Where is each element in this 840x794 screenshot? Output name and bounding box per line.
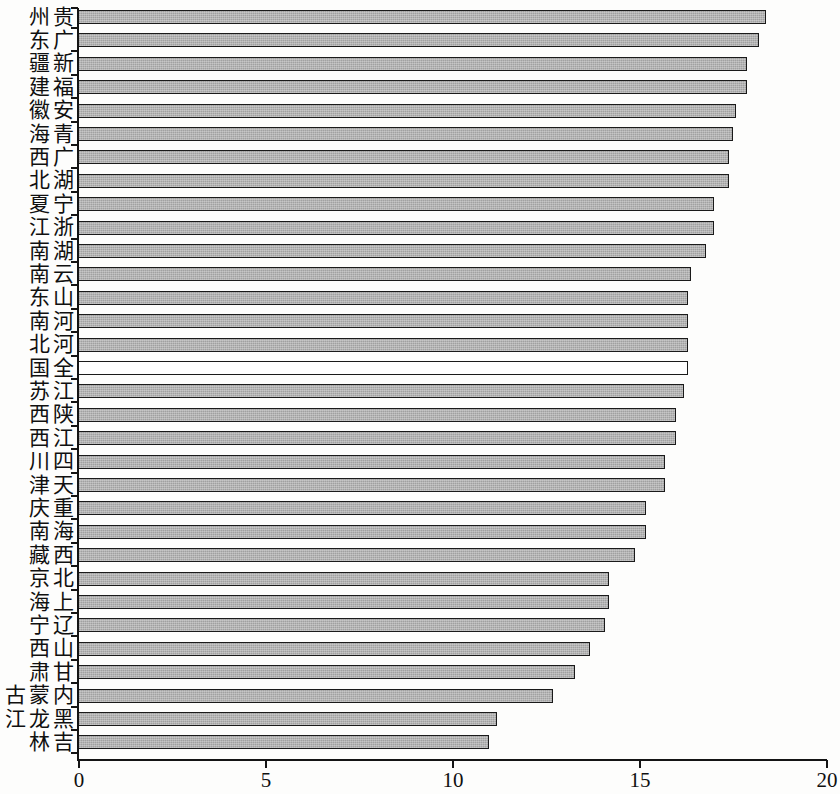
- category-label: 四川: [0, 451, 78, 473]
- category-label-char: 藏: [28, 545, 51, 566]
- bar: [78, 104, 736, 118]
- category-label-char: 宁: [28, 615, 51, 636]
- bar: [78, 361, 688, 375]
- category-label-char: 肃: [28, 662, 51, 683]
- category-label-char: 广: [52, 147, 75, 168]
- category-label-char: 重: [52, 498, 75, 519]
- bar: [78, 712, 497, 726]
- category-label-char: 山: [52, 287, 75, 308]
- bar: [78, 80, 747, 94]
- category-label-char: 川: [28, 451, 51, 472]
- bar: [78, 572, 609, 586]
- x-axis-tick-label: 5: [261, 769, 272, 791]
- category-label: 广西: [0, 146, 78, 168]
- category-label-char: 东: [28, 287, 51, 308]
- plot-area: [78, 8, 826, 760]
- category-label-char: 西: [52, 545, 75, 566]
- category-axis-labels: 贵州广东新疆福建安徽青海广西湖北宁夏浙江湖南云南山东河南河北全国江苏陕西江西四川…: [0, 0, 78, 760]
- bar: [78, 244, 706, 258]
- category-label-char: 江: [28, 217, 51, 238]
- category-label: 辽宁: [0, 614, 78, 636]
- category-label-char: 山: [52, 638, 75, 659]
- bar: [78, 689, 553, 703]
- category-label-char: 河: [52, 311, 75, 332]
- category-label-char: 海: [28, 592, 51, 613]
- category-label: 吉林: [0, 731, 78, 753]
- bar: [78, 221, 714, 235]
- x-axis-tick: [78, 760, 80, 768]
- category-label: 甘肃: [0, 661, 78, 683]
- category-label-char: 福: [52, 77, 75, 98]
- category-label: 安徽: [0, 100, 78, 122]
- bar: [78, 408, 676, 422]
- category-label-char: 东: [28, 30, 51, 51]
- category-label-char: 湖: [52, 241, 75, 262]
- category-label: 河北: [0, 334, 78, 356]
- category-label-char: 浙: [52, 217, 75, 238]
- bar: [78, 174, 729, 188]
- category-label: 湖南: [0, 240, 78, 262]
- category-label-char: 贵: [52, 7, 75, 28]
- bar: [78, 150, 729, 164]
- category-label: 天津: [0, 474, 78, 496]
- category-label-char: 苏: [28, 381, 51, 402]
- category-label-char: 南: [28, 264, 51, 285]
- category-label-char: 江: [4, 709, 27, 730]
- bar: [78, 291, 688, 305]
- category-label-char: 北: [52, 568, 75, 589]
- category-label: 西藏: [0, 544, 78, 566]
- category-label-char: 庆: [28, 498, 51, 519]
- category-label-char: 海: [28, 124, 51, 145]
- bar: [78, 10, 766, 24]
- bar: [78, 197, 714, 211]
- category-label-char: 宁: [52, 194, 75, 215]
- category-label-char: 西: [28, 638, 51, 659]
- category-label-char: 青: [52, 124, 75, 145]
- x-axis-tick: [826, 760, 828, 768]
- category-label: 浙江: [0, 217, 78, 239]
- category-label-char: 龙: [28, 709, 51, 730]
- category-label-char: 江: [52, 381, 75, 402]
- category-label-char: 海: [52, 521, 75, 542]
- category-label-char: 辽: [52, 615, 75, 636]
- category-label: 新疆: [0, 53, 78, 75]
- category-label-char: 河: [52, 334, 75, 355]
- category-label-char: 徽: [28, 100, 51, 121]
- category-label-char: 西: [28, 147, 51, 168]
- category-label-char: 云: [52, 264, 75, 285]
- bar: [78, 431, 676, 445]
- bar: [78, 338, 688, 352]
- bar: [78, 478, 665, 492]
- x-axis-tick: [265, 760, 267, 768]
- category-label-char: 北: [28, 170, 51, 191]
- category-label: 重庆: [0, 497, 78, 519]
- category-label: 宁夏: [0, 193, 78, 215]
- category-label-char: 四: [52, 451, 75, 472]
- category-label: 山东: [0, 287, 78, 309]
- x-axis-tick-label: 10: [443, 769, 464, 791]
- bar: [78, 642, 590, 656]
- category-label: 内蒙古: [0, 685, 78, 707]
- bar: [78, 618, 605, 632]
- bar: [78, 455, 665, 469]
- category-label-char: 津: [28, 475, 51, 496]
- y-axis-line: [77, 8, 79, 760]
- category-label: 贵州: [0, 6, 78, 28]
- category-label: 北京: [0, 568, 78, 590]
- category-label-char: 林: [28, 732, 51, 753]
- category-label: 河南: [0, 310, 78, 332]
- category-label-char: 疆: [28, 53, 51, 74]
- bar: [78, 501, 646, 515]
- bar: [78, 57, 747, 71]
- category-label-char: 京: [28, 568, 51, 589]
- category-label-char: 广: [52, 30, 75, 51]
- bar: [78, 267, 691, 281]
- category-label: 全国: [0, 357, 78, 379]
- bar: [78, 665, 575, 679]
- category-label-char: 夏: [28, 194, 51, 215]
- category-label: 青海: [0, 123, 78, 145]
- category-label-char: 湖: [52, 170, 75, 191]
- category-label-char: 全: [52, 358, 75, 379]
- x-axis-tick: [452, 760, 454, 768]
- category-label-char: 南: [28, 241, 51, 262]
